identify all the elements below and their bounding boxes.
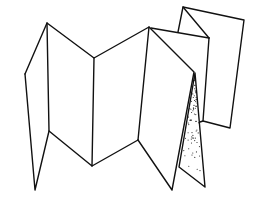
back-panel — [178, 7, 244, 128]
illustration-canvas: accordion-folded paper / leporello broch… — [0, 0, 254, 201]
zigzag-panels — [25, 23, 149, 190]
accordion-fold-drawing — [0, 0, 254, 201]
